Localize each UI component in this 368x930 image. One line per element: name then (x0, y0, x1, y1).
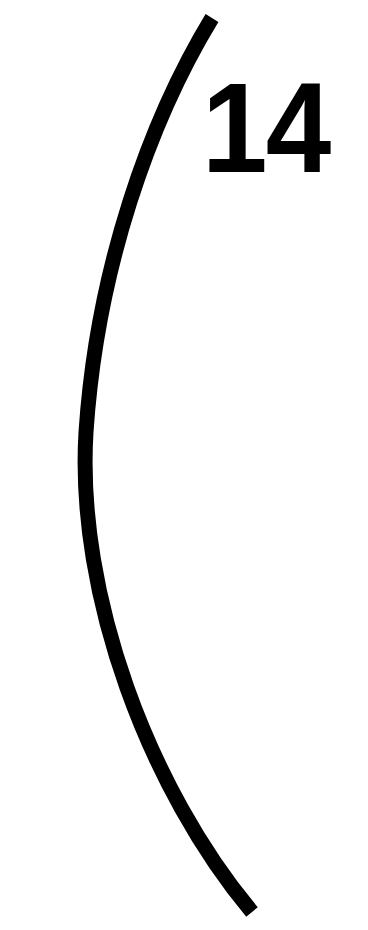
page-number: 14 (202, 68, 331, 188)
page-canvas: 14 (0, 0, 368, 930)
